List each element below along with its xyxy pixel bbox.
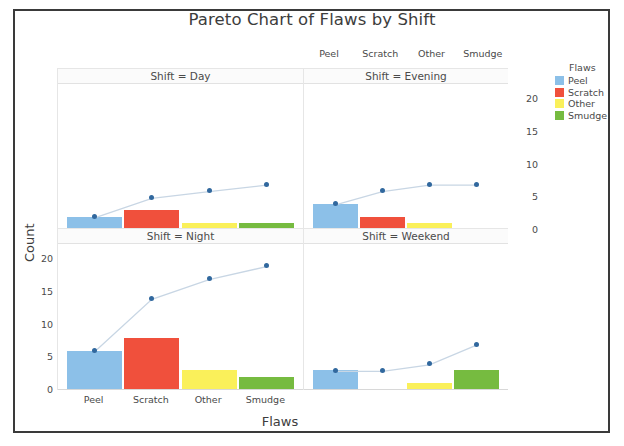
cumulative-point (264, 182, 269, 187)
top-category-label: Smudge (457, 48, 509, 59)
legend: Flaws PeelScratchOtherSmudge (555, 62, 621, 121)
legend-label: Other (568, 98, 595, 109)
cumulative-point (474, 342, 479, 347)
legend-item: Smudge (555, 110, 621, 122)
x-axis-title: Flaws (170, 414, 390, 429)
facet-strip-label: Shift = Weekend (304, 229, 508, 244)
legend-item: Scratch (555, 87, 621, 99)
facet-strip-label: Shift = Night (58, 229, 303, 244)
y-axis-tick-left: 10 (31, 319, 53, 330)
facet-strip-label: Shift = Evening (304, 69, 508, 84)
y-axis-tick-right: 15 (516, 126, 538, 137)
facet-panel: Shift = Evening (303, 68, 508, 230)
y-axis-tick-left: 15 (31, 286, 53, 297)
facet-strip-label: Shift = Day (58, 69, 303, 84)
cumulative-point (207, 188, 212, 193)
y-axis-tick-right: 10 (516, 159, 538, 170)
top-category-label: Scratch (354, 48, 406, 59)
legend-swatch (555, 76, 564, 85)
cumulative-point (427, 182, 432, 187)
facet-panel: Shift = Day (57, 68, 303, 230)
legend-item: Peel (555, 75, 621, 87)
cumulative-point (207, 276, 212, 281)
y-axis-tick-right: 5 (516, 191, 538, 202)
top-category-labels: PeelScratchOtherSmudge (303, 48, 508, 62)
facet-plot-body (58, 83, 303, 230)
legend-swatch (555, 88, 564, 97)
facet-panel: Shift = Weekend (303, 228, 508, 390)
cumulative-line (58, 83, 303, 230)
legend-label: Smudge (568, 110, 607, 121)
cumulative-point (380, 368, 385, 373)
facet-panel: Shift = Night (57, 228, 303, 390)
facet-plot-body (304, 83, 508, 230)
top-category-label: Peel (303, 48, 355, 59)
legend-label: Peel (568, 75, 588, 86)
facet-plot-body (58, 243, 303, 390)
cumulative-point (264, 263, 269, 268)
top-category-label: Other (406, 48, 458, 59)
legend-title: Flaws (569, 62, 621, 73)
x-axis-tick: Scratch (123, 394, 179, 405)
y-axis-tick-right: 20 (516, 93, 538, 104)
legend-item: Other (555, 98, 621, 110)
cumulative-line (304, 83, 508, 230)
chart-title: Pareto Chart of Flaws by Shift (0, 10, 624, 29)
cumulative-point (474, 182, 479, 187)
facet-plot-body (304, 243, 508, 390)
legend-swatch (555, 111, 564, 120)
legend-swatch (555, 99, 564, 108)
legend-label: Scratch (568, 87, 604, 98)
y-axis-tick-left: 0 (31, 384, 53, 395)
x-axis-tick: Smudge (237, 394, 293, 405)
y-axis-tick-right: 0 (516, 224, 538, 235)
y-axis-tick-left: 20 (31, 253, 53, 264)
x-axis-tick: Peel (66, 394, 122, 405)
x-axis-tick: Other (180, 394, 236, 405)
cumulative-point (333, 368, 338, 373)
y-axis-tick-left: 5 (31, 351, 53, 362)
